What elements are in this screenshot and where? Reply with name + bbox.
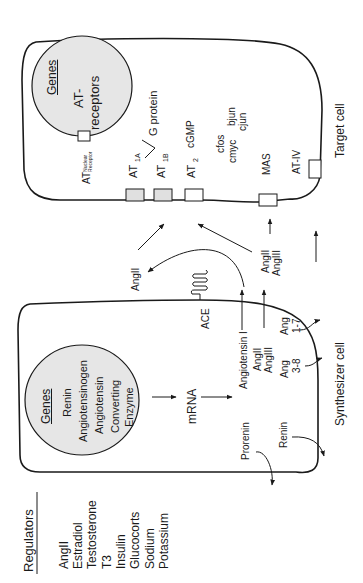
prorenin-label: Prorenin	[241, 422, 251, 460]
synth-gene-enzyme: Enzyme	[124, 387, 135, 427]
synth-nucleus-title: Genes	[40, 389, 52, 424]
at1b-receptor-box	[154, 189, 172, 201]
at4-label: AT-IV	[292, 150, 302, 174]
synth-gene-renin: Renin	[62, 388, 73, 417]
regulators-title: Regulators	[22, 509, 35, 572]
ace-label: ACE	[201, 308, 211, 329]
angii-product-label: AngII	[253, 348, 263, 371]
target-cell-label: Target cell	[334, 103, 346, 158]
cmyc-label: cmyc	[228, 140, 238, 163]
regulator-item: Insulin	[115, 534, 127, 569]
at1b-label: AT 1B	[156, 153, 169, 178]
target-nucleus-line2: receptors	[88, 76, 101, 130]
at1a-label: AT 1A	[128, 153, 141, 178]
mas-receptor-box	[259, 194, 277, 206]
regulator-item: Potassium	[158, 513, 170, 569]
g-protein-label: G protein	[148, 91, 159, 136]
ang38-label-a: Ang	[280, 360, 290, 378]
regulator-item: Sodium	[144, 528, 156, 569]
angiii-product-label: AngIII	[264, 347, 274, 373]
bjun-label: bjun	[227, 107, 237, 126]
at2-receptor-box	[185, 189, 203, 201]
ang17-label-b: 1-7	[292, 319, 302, 333]
angiii-pair-label: AngIII	[272, 250, 282, 276]
synth-gene-converting: Converting	[110, 380, 121, 433]
at4-receptor-box	[309, 160, 321, 178]
regulator-item: Estradiol	[72, 522, 84, 569]
regulator-item: AngII	[58, 541, 70, 569]
angii-loop-label: AngII	[131, 268, 141, 291]
g-protein-bracket	[142, 140, 155, 158]
regulator-item: Testosterone	[86, 500, 98, 569]
regulator-item: T3	[101, 555, 113, 569]
target-nucleus-title: Genes	[46, 60, 58, 95]
cfos-label: cfos	[216, 135, 226, 153]
mrna-label: mRNA	[186, 389, 198, 424]
synth-gene-angiotensinogen: Angiotensinogen	[78, 360, 89, 442]
target-nucleus-line1: AT-	[72, 89, 85, 108]
ang38-label-b: 3-8	[292, 359, 302, 373]
mas-label: MAS	[262, 153, 272, 175]
renin-label: Renin	[279, 422, 289, 448]
cjun-label: cjun	[238, 113, 248, 131]
at2-label: AT 2	[186, 158, 199, 178]
angii-pair-label: AngII	[261, 250, 271, 273]
cgmp-label: cGMP	[186, 120, 196, 148]
regulator-item: Glucocorts	[129, 512, 141, 569]
nuclear-receptor-label: ATNuclearReceptor	[82, 152, 93, 184]
ang17-label-a: Ang	[280, 317, 290, 335]
ace-coil	[191, 270, 207, 300]
at1a-receptor-box	[126, 189, 144, 201]
synthesizer-cell-label: Synthesizer cell	[334, 342, 346, 426]
synth-gene-angiotensin: Angiotensin	[94, 377, 105, 435]
angiotensin-i-label: Angiotensin I	[239, 331, 249, 389]
nuclear-receptor-box	[78, 131, 90, 141]
